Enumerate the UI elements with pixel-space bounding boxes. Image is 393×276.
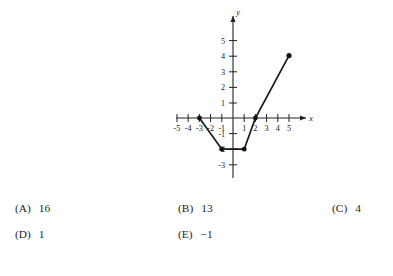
x-tick-label: -3 <box>196 124 203 133</box>
x-tick-label: -5 <box>174 124 181 133</box>
x-axis-label: x <box>308 114 313 123</box>
answer-choice-b-value: 13 <box>201 200 212 216</box>
x-tick-label: 1 <box>242 124 246 133</box>
answer-choice-d[interactable]: (D)1 <box>15 226 45 242</box>
y-axis-arrow-icon <box>230 16 235 22</box>
y-tick-label: -1 <box>218 130 225 139</box>
answer-choice-c-value: 4 <box>355 200 361 216</box>
y-tick-label: 3 <box>221 68 225 77</box>
x-tick-label: 5 <box>287 124 291 133</box>
x-tick-label: 3 <box>265 124 269 133</box>
vertex-dot <box>197 116 202 121</box>
graph-figure: -5 -4 -3 -2 -1 1 2 3 4 5 5 4 3 2 1 -1 -2… <box>168 4 318 188</box>
answer-choice-c[interactable]: (C)4 <box>332 200 361 216</box>
curve-vertex-markers <box>197 53 292 152</box>
answer-choice-e[interactable]: (E)−1 <box>178 226 213 242</box>
answer-choice-b[interactable]: (B)13 <box>178 200 213 216</box>
answer-choice-a-tag: (A) <box>15 200 31 216</box>
y-axis-label: y <box>235 8 240 17</box>
answer-choice-row: (D)1 (E)−1 <box>0 226 393 252</box>
answer-choice-b-tag: (B) <box>178 200 193 216</box>
vertex-dot <box>219 147 224 152</box>
answer-choice-e-tag: (E) <box>178 226 193 242</box>
y-tick-label: 5 <box>221 37 225 46</box>
y-tick-label: 2 <box>221 83 225 92</box>
y-tick-label: 4 <box>221 52 225 61</box>
x-tick-label: 4 <box>276 124 280 133</box>
answer-choices: (A)16 (B)13 (C)4 (D)1 (E)−1 <box>0 200 393 260</box>
answer-choice-row: (A)16 (B)13 (C)4 <box>0 200 393 226</box>
x-tick-label: 2 <box>253 124 257 133</box>
answer-choice-c-tag: (C) <box>332 200 347 216</box>
answer-choice-d-value: 1 <box>39 226 45 242</box>
function-curve <box>199 56 289 150</box>
answer-choice-d-tag: (D) <box>15 226 31 242</box>
answer-choice-e-value: −1 <box>201 226 213 242</box>
x-axis-tick-labels: -5 -4 -3 -2 -1 1 2 3 4 5 <box>174 124 291 133</box>
answer-choice-a-value: 16 <box>39 200 50 216</box>
y-tick-label: 1 <box>221 99 225 108</box>
answer-choice-a[interactable]: (A)16 <box>15 200 50 216</box>
vertex-dot <box>253 116 258 121</box>
coordinate-plane-graph: -5 -4 -3 -2 -1 1 2 3 4 5 5 4 3 2 1 -1 -2… <box>168 4 318 188</box>
vertex-dot <box>286 53 291 58</box>
x-tick-label: -4 <box>185 124 192 133</box>
x-axis-arrow-icon <box>300 115 306 120</box>
y-tick-label: -3 <box>218 161 225 170</box>
vertex-dot <box>242 147 247 152</box>
